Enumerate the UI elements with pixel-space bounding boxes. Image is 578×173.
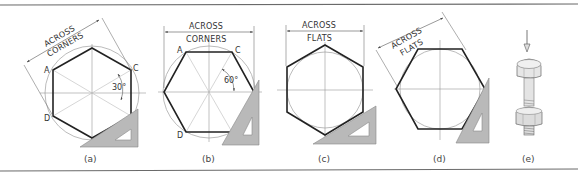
point-a: A: [44, 66, 50, 75]
triangle-30-60: [456, 78, 489, 143]
angle-label: 30°: [112, 83, 126, 92]
point-c: C: [133, 64, 139, 73]
dimension-label-corners: CORNERS: [186, 35, 227, 44]
triangle-30-60: [80, 109, 138, 147]
panel-c: ACROSS FLATS (c): [277, 21, 376, 164]
caption-d: (d): [433, 154, 446, 164]
point-c: C: [235, 46, 241, 55]
dimension-label-flats: FLATS: [307, 34, 332, 43]
caption-e: (e): [522, 154, 535, 164]
hexagon-construction-figure: ACROSS CORNERS 30° A C D B (a) ACROSS CO…: [0, 0, 578, 173]
point-a: A: [177, 46, 183, 55]
triangle-30-60: [222, 80, 259, 145]
panel-d: ACROSS FLATS (d): [376, 12, 489, 164]
point-d: D: [177, 131, 183, 140]
dimension-label-across: ACROSS: [189, 22, 223, 31]
panel-b: ACROSS CORNERS 60° A C D B (b): [158, 22, 262, 164]
top-rule: [0, 4, 578, 5]
panel-a: ACROSS CORNERS 30° A C D B (a): [24, 18, 146, 164]
angle-label: 60°: [224, 76, 238, 85]
caption-a: (a): [84, 154, 97, 164]
caption-b: (b): [202, 154, 215, 164]
panel-e: (e): [516, 30, 542, 164]
point-d: D: [44, 114, 50, 123]
caption-c: (c): [318, 154, 330, 164]
dimension-label-across: ACROSS: [302, 21, 336, 30]
bolt-illustration: [516, 30, 542, 135]
bottom-rule: [0, 169, 578, 171]
